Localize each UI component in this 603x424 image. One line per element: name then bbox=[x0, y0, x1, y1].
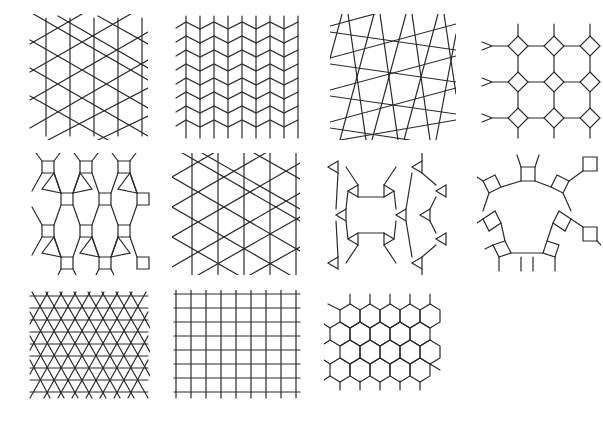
snub-square-drawing bbox=[330, 14, 456, 140]
tiling-truncated-trihexagonal bbox=[477, 153, 601, 275]
trihexagonal-drawing bbox=[172, 153, 300, 275]
tiling-hexagonal bbox=[324, 290, 454, 402]
square-drawing bbox=[172, 290, 302, 400]
truncated-square-drawing bbox=[478, 14, 602, 140]
tiling-trihexagonal bbox=[172, 153, 300, 275]
tiling-triangular bbox=[28, 290, 150, 402]
tiling-elongated-triangular bbox=[174, 14, 300, 140]
tiling-truncated-square bbox=[478, 14, 602, 140]
truncated-hexagonal-drawing bbox=[326, 153, 454, 275]
snub-hexagonal-drawing bbox=[28, 14, 148, 140]
truncated-trihexagonal-drawing bbox=[477, 153, 601, 275]
triangular-drawing bbox=[28, 290, 150, 402]
tiling-truncated-hexagonal bbox=[326, 153, 454, 275]
rhombitrihexagonal-drawing bbox=[28, 153, 150, 275]
tiling-snub-hexagonal bbox=[28, 14, 148, 140]
tiling-square bbox=[172, 290, 302, 400]
elongated-triangular-drawing bbox=[174, 14, 300, 140]
hexagonal-drawing bbox=[324, 290, 454, 402]
tiling-snub-square bbox=[330, 14, 456, 140]
tiling-rhombitrihexagonal bbox=[28, 153, 150, 275]
